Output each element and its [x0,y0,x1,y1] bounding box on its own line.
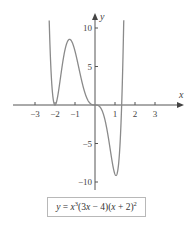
equation-caption: y = x3(3x − 4)(x + 2)2 [47,197,146,217]
x-tick-label: 3 [153,109,158,119]
caption-equals: = [60,202,70,212]
y-axis-arrow-icon [92,13,98,20]
y-tick-label: 10 [83,23,93,33]
x-axis-label: x [178,89,184,100]
x-tick-label: 2 [133,109,138,119]
caption-exponent-2: 2 [134,200,137,207]
x-tick-label: 1 [113,109,118,119]
y-tick-label: 5 [88,62,93,72]
function-plot: x y −3−2−1123 105−5−10 [0,0,191,228]
y-axis-label: y [99,11,105,22]
function-curve [49,20,124,175]
y-tick-label: −10 [78,177,93,187]
y-tick-label: −5 [82,139,92,149]
caption-factor-1b: − 4)( [90,202,111,212]
x-tick-label: −3 [30,109,40,119]
x-tick-label: −2 [50,109,60,119]
caption-factor-1a: (3 [78,202,86,212]
caption-factor-2b: + 2) [116,202,134,212]
x-tick-label: −1 [70,109,80,119]
x-axis-arrow-icon [177,102,184,108]
